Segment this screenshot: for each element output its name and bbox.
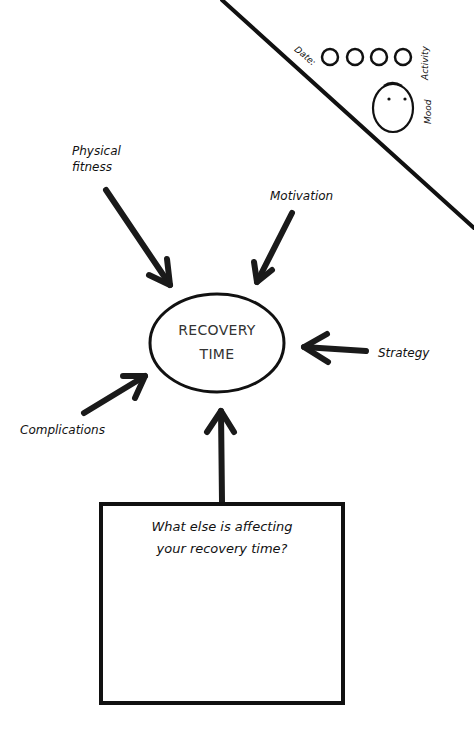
recovery-time-title: RECOVERY TIME — [151, 318, 283, 366]
activity-circle-4[interactable] — [395, 49, 411, 65]
mood-label: Mood — [423, 100, 433, 125]
recovery-time-line1: RECOVERY — [151, 318, 283, 342]
factor-motivation: Motivation — [270, 188, 333, 204]
activity-circle-3[interactable] — [371, 49, 387, 65]
activity-circle-2[interactable] — [347, 49, 363, 65]
activity-circles — [322, 49, 411, 65]
factor-physical-fitness-line2: fitness — [72, 159, 121, 175]
physical-fitness-arrow-icon — [106, 190, 170, 285]
complications-arrow-icon — [84, 376, 145, 413]
activity-circle-1[interactable] — [322, 49, 338, 65]
prompt-question: What else is affecting your recovery tim… — [103, 516, 341, 560]
prompt-arrow-icon — [207, 411, 234, 502]
mood-face-icon[interactable] — [373, 83, 413, 132]
prompt-line2: your recovery time? — [103, 538, 341, 560]
factor-physical-fitness-line1: Physical — [72, 143, 121, 159]
factor-strategy: Strategy — [378, 345, 429, 361]
factor-physical-fitness: Physical fitness — [72, 143, 121, 175]
prompt-answer-box[interactable]: What else is affecting your recovery tim… — [99, 502, 345, 705]
factor-complications: Complications — [20, 422, 105, 438]
motivation-arrow-icon — [254, 213, 292, 282]
activity-label: Activity — [420, 46, 430, 80]
diagonal-divider — [222, 0, 474, 228]
prompt-line1: What else is affecting — [103, 516, 341, 538]
recovery-time-line2: TIME — [151, 342, 283, 366]
strategy-arrow-icon — [304, 334, 366, 362]
